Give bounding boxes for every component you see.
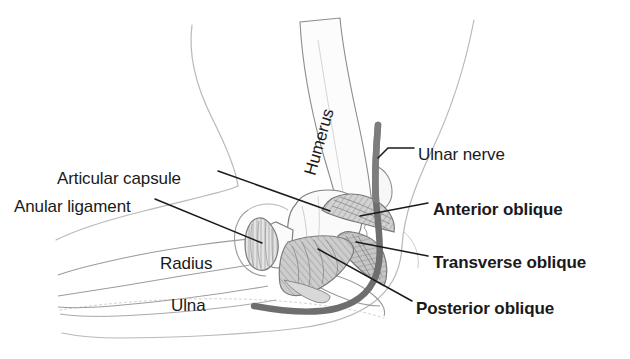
label-ulna: Ulna [171, 297, 206, 314]
label-radius: Radius [160, 255, 212, 272]
label-posterior-oblique: Posterior oblique [416, 300, 554, 317]
label-ulnar-nerve: Ulnar nerve [418, 146, 505, 163]
leader-anular-ligament [155, 199, 262, 243]
leader-articular-capsule [218, 171, 330, 211]
posterior-oblique-ligament [279, 236, 353, 303]
leader-ulnar-nerve [378, 148, 414, 158]
label-anterior-oblique: Anterior oblique [433, 201, 563, 218]
label-anular-ligament: Anular ligament [14, 198, 131, 215]
label-transverse-oblique: Transverse oblique [433, 254, 586, 271]
label-articular-capsule: Articular capsule [57, 170, 181, 187]
